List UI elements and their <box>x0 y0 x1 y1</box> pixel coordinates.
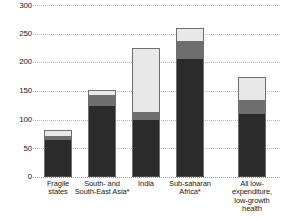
bar-segment-light <box>176 28 204 41</box>
bar-sub-saharan-africa[interactable] <box>176 28 204 177</box>
stacked-bar-chart: 300 250 200 150 100 50 0 <box>0 0 285 220</box>
y-tick-label-50: 50 <box>8 145 32 153</box>
y-tick-label-250: 250 <box>8 30 32 38</box>
x-label-line: health <box>215 205 285 213</box>
bar-segment-dark <box>132 120 160 177</box>
bar-segment-mid <box>88 95 116 106</box>
bar-all-low-expenditure-low-growth-health[interactable] <box>238 77 266 177</box>
x-label-all-low-expenditure-low-growth-health: All low- expenditure, low-growth health <box>215 180 285 214</box>
bar-segment-dark <box>88 106 116 177</box>
bar-segment-mid <box>176 41 204 59</box>
bar-south-and-south-east-asia[interactable] <box>88 90 116 177</box>
bar-fragile-states[interactable] <box>44 130 72 177</box>
bar-segment-mid <box>132 112 160 120</box>
gridline-300 <box>30 5 280 6</box>
bar-segment-mid <box>238 100 266 114</box>
y-tick-label-200: 200 <box>8 58 32 66</box>
bar-segment-light <box>238 77 266 100</box>
y-tick-label-100: 100 <box>8 116 32 124</box>
x-axis-labels: Fragile states South- and South-East Asi… <box>30 180 280 220</box>
axis-baseline-0 <box>30 177 280 178</box>
bar-segment-dark <box>176 59 204 177</box>
y-tick-label-150: 150 <box>8 87 32 95</box>
gridline-250 <box>30 34 280 35</box>
bar-india[interactable] <box>132 48 160 177</box>
bar-segment-light <box>132 48 160 112</box>
bar-segment-dark <box>44 140 72 177</box>
y-tick-label-300: 300 <box>8 2 32 10</box>
x-label-line: South-East Asia* <box>65 188 139 196</box>
plot-area <box>30 5 280 177</box>
bar-segment-dark <box>238 114 266 177</box>
